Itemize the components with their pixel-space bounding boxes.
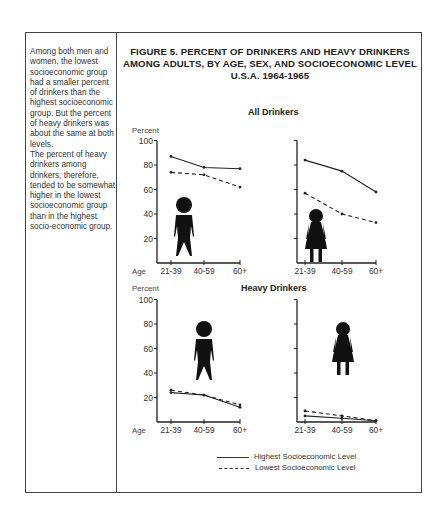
female-figure-icon: [332, 322, 354, 375]
y-tick-label: 100: [139, 136, 153, 146]
legend-label-highest: Highest Socioeconomic Level: [254, 452, 356, 461]
data-point: [170, 389, 173, 392]
legend-label-lowest: Lowest Socioeconomic Level: [255, 463, 356, 472]
data-point: [170, 391, 173, 394]
data-point: [170, 171, 173, 174]
legend-dashed-line: [219, 468, 249, 469]
series-highest-line: [171, 393, 240, 408]
data-point: [304, 414, 307, 417]
male-figure-icon: [174, 197, 194, 256]
data-point: [239, 403, 242, 406]
data-point: [375, 221, 378, 224]
chart-panel-2: 21-3940-5960+: [294, 141, 383, 277]
y-tick-label: 80: [144, 319, 154, 329]
series-highest-line: [171, 156, 240, 168]
data-point: [341, 417, 344, 420]
legend-solid-line: [217, 457, 249, 458]
x-tick-label: 60+: [369, 425, 383, 435]
x-tick-label: 60+: [233, 425, 247, 435]
y-tick-label: 100: [139, 295, 153, 305]
data-point: [341, 414, 344, 417]
data-point: [239, 406, 242, 409]
data-point: [341, 213, 344, 216]
y-tick-label: 20: [144, 234, 154, 244]
data-point: [341, 170, 344, 173]
x-tick-label: 21-39: [160, 425, 182, 435]
data-point: [304, 192, 307, 195]
x-tick-label: 60+: [369, 266, 383, 276]
data-point: [170, 155, 173, 158]
series-lowest-line: [171, 390, 240, 405]
series-lowest-line: [171, 172, 240, 187]
female-figure-icon: [305, 209, 327, 262]
data-point: [203, 394, 206, 397]
x-tick-label: 60+: [233, 266, 247, 276]
series-highest-line: [305, 160, 376, 192]
x-tick-label: 40-59: [193, 266, 215, 276]
y-tick-label: 40: [144, 209, 154, 219]
y-tick-label: 80: [144, 160, 154, 170]
data-point: [239, 186, 242, 189]
y-tick-label: 20: [144, 393, 154, 403]
data-point: [304, 159, 307, 162]
series-lowest-line: [305, 411, 376, 421]
chart-panel-1: 1008060402021-3940-5960+AgePercent: [132, 126, 247, 276]
data-point: [203, 173, 206, 176]
x-tick-label: 40-59: [331, 425, 353, 435]
chart-panel-4: 21-3940-5960+: [294, 300, 383, 436]
data-point: [375, 419, 378, 422]
y-tick-label: 40: [144, 368, 154, 378]
x-tick-label: 21-39: [294, 266, 316, 276]
charts-canvas: 1008060402021-3940-5960+AgePercent21-394…: [0, 0, 447, 522]
y-tick-label: 60: [144, 344, 154, 354]
x-axis-label: Age: [132, 426, 146, 435]
x-tick-label: 40-59: [331, 266, 353, 276]
data-point: [203, 166, 206, 169]
y-axis-label: Percent: [132, 126, 160, 135]
y-axis-label: Percent: [132, 284, 160, 293]
x-tick-label: 21-39: [160, 266, 182, 276]
series-highest-line: [305, 416, 376, 421]
data-point: [375, 191, 378, 194]
male-figure-icon: [194, 321, 214, 380]
x-axis-label: Age: [132, 267, 146, 276]
y-tick-label: 60: [144, 185, 154, 195]
legend: Highest Socioeconomic Level Lowest Socio…: [214, 452, 414, 482]
x-tick-label: 40-59: [193, 425, 215, 435]
data-point: [239, 167, 242, 170]
data-point: [304, 410, 307, 413]
x-tick-label: 21-39: [294, 425, 316, 435]
chart-panel-3: 1008060402021-3940-5960+AgePercent: [132, 284, 247, 435]
